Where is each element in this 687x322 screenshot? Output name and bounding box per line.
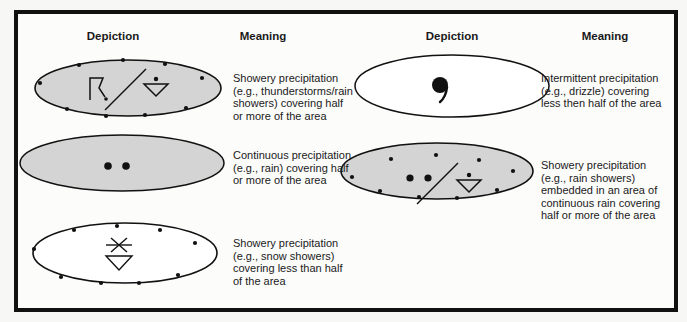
depiction-rain-showers-embedded <box>341 143 533 204</box>
meaning-drizzle: Intermittent precipitation (e.g., drizzl… <box>541 72 661 110</box>
depiction-snow-showers <box>32 223 217 285</box>
depiction-continuous-rain <box>20 135 224 191</box>
depiction-drizzle <box>355 55 549 117</box>
meaning-continuous-rain: Continuous precipitation (e.g., rain) co… <box>233 149 351 187</box>
depiction-thunderstorm-showers <box>35 58 221 118</box>
meaning-thunderstorm-showers: Showery precipitation (e.g., thunderstor… <box>233 72 353 122</box>
meaning-rain-showers-embedded: Showery precipitation (e.g., rain shower… <box>541 159 660 222</box>
meaning-snow-showers: Showery precipitation (e.g., snow shower… <box>233 237 342 287</box>
